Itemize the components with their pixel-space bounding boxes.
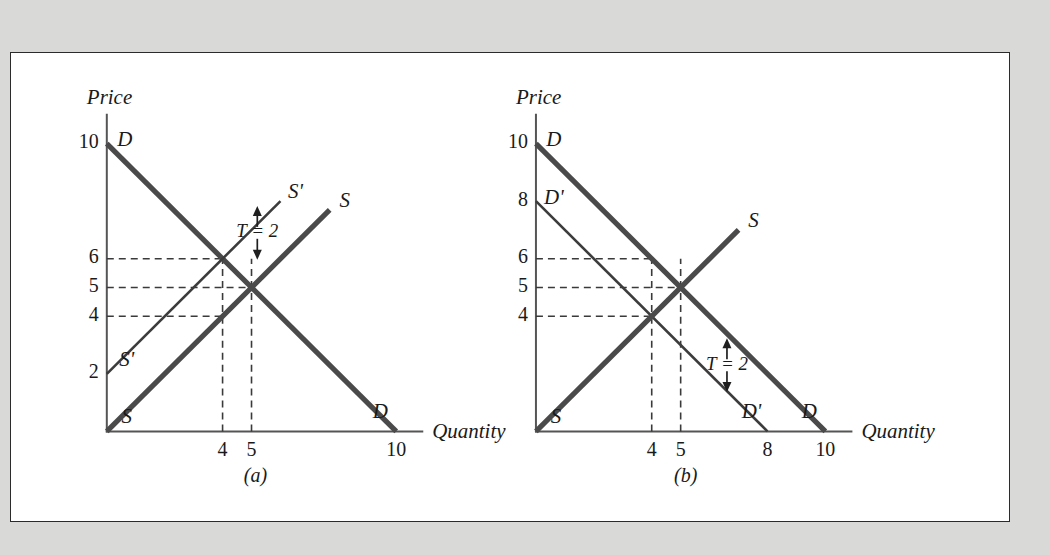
- curve-label-D-start: D: [545, 127, 561, 151]
- tax-arrow-head-up: [253, 206, 262, 216]
- curve-label-D-start: D: [116, 127, 132, 151]
- y-tick-label: 8: [518, 188, 528, 210]
- tax-gap-label: T = 2: [236, 220, 278, 241]
- curve-label-D-end: D: [801, 399, 817, 423]
- curve-label-S-end: S: [748, 208, 759, 232]
- x-axis-title: Quantity: [432, 419, 506, 443]
- x-tick-label: 4: [218, 438, 228, 460]
- x-tick-label: 8: [762, 438, 772, 460]
- economics-supply-demand-figure: PriceQuantity2456104510DDSSS'S'T = 2(a) …: [11, 53, 1009, 521]
- x-tick-label: 4: [647, 438, 657, 460]
- panel-a: PriceQuantity2456104510DDSSS'S'T = 2(a): [79, 85, 506, 487]
- curve-label-D-prime-end: D': [741, 399, 762, 423]
- y-tick-label: 5: [518, 274, 528, 296]
- x-tick-label: 5: [247, 438, 257, 460]
- x-tick-label: 5: [676, 438, 686, 460]
- y-tick-label: 4: [89, 303, 99, 325]
- y-tick-label: 4: [518, 303, 528, 325]
- x-tick-label: 10: [815, 438, 835, 460]
- curve-label-D-prime-start: D': [543, 185, 564, 209]
- curve-S: [107, 210, 330, 432]
- tax-gap-label: T = 2: [706, 353, 748, 374]
- tax-arrow-head-down: [253, 250, 262, 260]
- y-tick-label: 5: [89, 274, 99, 296]
- y-axis-title: Price: [515, 85, 561, 109]
- x-tick-label: 10: [386, 438, 406, 460]
- curve-label-S-start: S: [551, 404, 562, 428]
- figure-frame: PriceQuantity2456104510DDSSS'S'T = 2(a) …: [10, 52, 1010, 522]
- curve-label-D-end: D: [372, 399, 388, 423]
- tax-gap-annotation: T = 2: [236, 206, 278, 260]
- y-tick-label: 2: [89, 360, 99, 382]
- y-tick-label: 6: [89, 245, 99, 267]
- y-axis-title: Price: [86, 85, 132, 109]
- curve-label-S-end: S: [339, 188, 350, 212]
- y-tick-label: 6: [518, 245, 528, 267]
- panel-caption-a: (a): [244, 464, 268, 487]
- curve-S: [536, 230, 739, 431]
- curve-label-S-start: S: [122, 404, 133, 428]
- curve-label-S-prime-end: S': [288, 179, 303, 203]
- x-axis-title: Quantity: [861, 419, 935, 443]
- panel-caption-b: (b): [674, 464, 698, 487]
- curve-label-S-prime-start: S': [119, 347, 134, 371]
- y-tick-label: 10: [508, 130, 528, 152]
- panel-b: PriceQuantity45681045810DDD'D'SST = 2(b): [508, 85, 935, 487]
- y-tick-label: 10: [79, 130, 99, 152]
